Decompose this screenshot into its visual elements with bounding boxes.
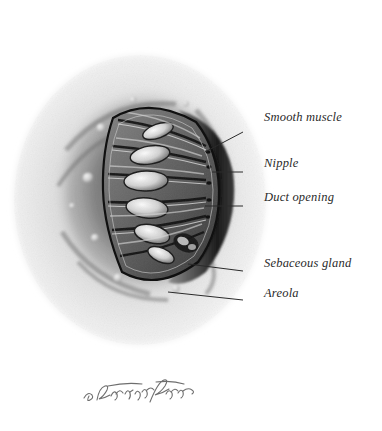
artist-signature: S. Shapiro Brennan — [78, 372, 200, 412]
label-smooth-muscle: Smooth muscle — [264, 110, 342, 125]
label-sebaceous-gland: Sebaceous gland — [264, 256, 351, 271]
label-areola: Areola — [264, 286, 299, 301]
label-nipple: Nipple — [264, 156, 299, 171]
illustration-canvas: Smooth muscle Nipple Duct opening Sebace… — [0, 0, 382, 431]
anatomical-illustration — [0, 0, 382, 431]
label-duct-opening: Duct opening — [264, 190, 334, 205]
